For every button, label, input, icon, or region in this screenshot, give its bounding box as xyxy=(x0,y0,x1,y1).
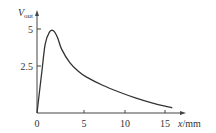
y-axis-label: Vout xyxy=(18,7,33,20)
x-tick-label-0: 0 xyxy=(35,118,40,129)
x-axis-label: x/mm xyxy=(177,118,201,129)
x-tick-label-5: 5 xyxy=(82,118,87,129)
vout-curve xyxy=(37,30,172,113)
x-axis-arrow-icon xyxy=(180,111,186,115)
y-tick-label-5: 5 xyxy=(28,24,33,35)
x-tick-label-10: 10 xyxy=(120,118,130,129)
y-tick-label-2.5: 2.5 xyxy=(21,61,34,72)
x-tick-label-15: 15 xyxy=(160,118,170,129)
chart: 5 2.5 0 5 10 15 Vout x/mm xyxy=(0,0,216,133)
y-axis-arrow-icon xyxy=(35,10,39,16)
